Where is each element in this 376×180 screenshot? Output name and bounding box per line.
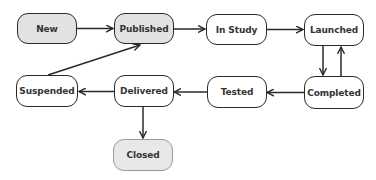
- state-label: Launched: [310, 25, 358, 35]
- state-label: New: [36, 24, 58, 34]
- state-new[interactable]: New: [17, 13, 77, 44]
- state-launched[interactable]: Launched: [304, 14, 364, 46]
- state-label: Published: [119, 24, 168, 34]
- state-label: Tested: [221, 87, 254, 97]
- state-closed[interactable]: Closed: [113, 139, 173, 171]
- edge-suspended-published: [48, 45, 140, 75]
- state-delivered[interactable]: Delivered: [114, 75, 174, 107]
- state-completed[interactable]: Completed: [304, 76, 364, 109]
- state-label: Delivered: [120, 86, 168, 96]
- state-suspended[interactable]: Suspended: [16, 75, 78, 107]
- state-label: In Study: [216, 25, 258, 35]
- state-tested[interactable]: Tested: [207, 76, 267, 108]
- state-label: Completed: [307, 88, 361, 98]
- state-published[interactable]: Published: [114, 13, 174, 44]
- state-label: Suspended: [19, 86, 74, 96]
- state-in-study[interactable]: In Study: [206, 14, 267, 45]
- state-label: Closed: [126, 150, 159, 160]
